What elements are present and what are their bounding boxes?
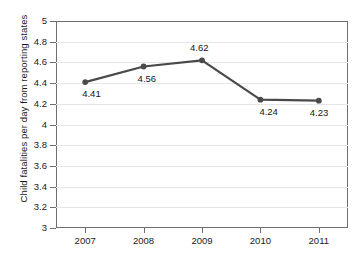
y-axis-tick xyxy=(50,166,56,167)
y-axis-tick-label: 3.4 xyxy=(7,182,47,192)
chart-container: Child fatalities per day from reporting … xyxy=(0,0,361,259)
gridline xyxy=(56,83,348,84)
x-axis-tick xyxy=(85,228,86,233)
y-axis-tick xyxy=(50,21,56,22)
data-point-label: 4.24 xyxy=(259,107,278,117)
gridline xyxy=(56,104,348,105)
y-axis-tick xyxy=(50,42,56,43)
y-axis-tick-label: 4.4 xyxy=(7,78,47,88)
y-axis-tick xyxy=(50,207,56,208)
y-axis-tick xyxy=(50,145,56,146)
x-axis-tick-label: 2009 xyxy=(178,236,226,246)
x-axis-tick xyxy=(260,228,261,233)
y-axis-tick xyxy=(50,83,56,84)
y-axis-tick xyxy=(50,62,56,63)
y-axis-tick-label: 3.8 xyxy=(7,140,47,150)
data-point-label: 4.23 xyxy=(310,108,329,118)
x-axis-tick-label: 2011 xyxy=(295,236,343,246)
y-axis-tick-label: 3.6 xyxy=(7,161,47,171)
gridline xyxy=(56,125,348,126)
data-point-label: 4.41 xyxy=(82,89,101,99)
x-axis-tick xyxy=(202,228,203,233)
gridline xyxy=(56,166,348,167)
gridline xyxy=(56,207,348,208)
y-axis-tick xyxy=(50,228,56,229)
y-axis-tick xyxy=(50,125,56,126)
x-axis-tick-label: 2010 xyxy=(236,236,284,246)
y-axis-tick-label: 5 xyxy=(7,16,47,26)
gridline xyxy=(56,145,348,146)
y-axis-tick-label: 4 xyxy=(7,120,47,130)
data-point-label: 4.56 xyxy=(138,74,157,84)
y-axis-tick-label: 4.8 xyxy=(7,37,47,47)
y-axis-tick-label: 4.6 xyxy=(7,57,47,67)
y-axis-tick xyxy=(50,187,56,188)
y-axis-tick-label: 4.2 xyxy=(7,99,47,109)
y-axis-tick-label: 3.2 xyxy=(7,202,47,212)
gridline xyxy=(56,62,348,63)
data-point-label: 4.62 xyxy=(190,43,209,53)
gridline xyxy=(56,187,348,188)
y-axis-tick xyxy=(50,104,56,105)
x-axis-tick-label: 2008 xyxy=(120,236,168,246)
x-axis-tick-label: 2007 xyxy=(61,236,109,246)
y-axis-tick-label: 3 xyxy=(7,223,47,233)
x-axis-tick xyxy=(144,228,145,233)
x-axis-tick xyxy=(319,228,320,233)
